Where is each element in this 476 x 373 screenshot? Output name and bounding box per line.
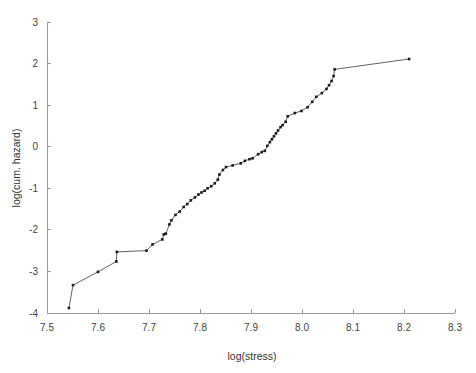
data-point (161, 238, 164, 241)
data-point (300, 110, 303, 113)
data-point (271, 138, 274, 141)
y-tick-label: -2 (29, 224, 38, 235)
data-point (266, 145, 269, 148)
x-tick-label: 8.1 (346, 322, 360, 333)
x-tick-label: 8.3 (448, 322, 462, 333)
x-axis-title: log(stress) (227, 350, 276, 362)
axis-lines (47, 22, 455, 313)
y-tick-label: 1 (32, 100, 38, 111)
data-point (240, 162, 243, 165)
data-point (263, 150, 266, 153)
y-axis-title: log(cum. hazard) (10, 129, 22, 208)
y-tick-label: -1 (29, 183, 38, 194)
data-point (178, 210, 181, 213)
data-point (257, 153, 260, 156)
data-point (260, 151, 263, 154)
data-point (145, 249, 148, 252)
data-point (213, 182, 216, 185)
x-tick-label: 8.2 (397, 322, 411, 333)
data-point (72, 284, 75, 287)
data-point (294, 112, 297, 115)
chart-figure: 7.57.67.77.87.98.08.18.28.3 -4-3-2-10123… (0, 0, 476, 373)
data-point (333, 68, 336, 71)
data-point (248, 158, 251, 161)
data-point (200, 191, 203, 194)
data-point (203, 189, 206, 192)
series-markers (68, 58, 411, 310)
data-point (332, 75, 335, 78)
data-point (197, 193, 200, 196)
data-point (277, 129, 280, 132)
data-point (165, 232, 168, 235)
data-point (273, 135, 276, 138)
axes-group: 7.57.67.77.87.98.08.18.28.3 -4-3-2-10123 (29, 17, 462, 334)
x-tick-marks (47, 309, 455, 313)
data-point (97, 271, 100, 274)
data-point (186, 203, 189, 206)
data-point (325, 88, 328, 91)
series-line (69, 59, 409, 308)
x-tick-label: 8.0 (295, 322, 309, 333)
x-tick-label: 7.6 (91, 322, 105, 333)
x-tick-label: 7.5 (40, 322, 54, 333)
data-point (206, 187, 209, 190)
cumulative-hazard-plot: 7.57.67.77.87.98.08.18.28.3 -4-3-2-10123… (0, 0, 476, 373)
data-point (68, 307, 71, 310)
data-point (286, 115, 289, 118)
data-point (284, 120, 287, 123)
data-point (281, 124, 284, 127)
x-tick-label: 7.7 (142, 322, 156, 333)
data-group (68, 58, 411, 310)
data-point (330, 80, 333, 83)
data-point (408, 58, 411, 61)
y-tick-label: 0 (32, 141, 38, 152)
data-point (174, 214, 177, 217)
data-point (190, 199, 193, 202)
data-point (115, 260, 118, 263)
x-tick-label: 7.9 (244, 322, 258, 333)
data-point (244, 160, 247, 163)
data-point (225, 166, 228, 169)
y-tick-labels: -4-3-2-10123 (29, 17, 38, 319)
data-point (269, 141, 272, 144)
data-point (328, 84, 331, 87)
data-point (151, 243, 154, 246)
y-tick-marks (47, 22, 51, 313)
data-point (170, 219, 173, 222)
data-point (217, 178, 220, 181)
data-point (251, 157, 254, 160)
data-point (311, 101, 314, 104)
data-point (231, 164, 234, 167)
y-tick-label: 3 (32, 17, 38, 28)
data-point (306, 106, 309, 109)
data-point (321, 92, 324, 95)
data-point (315, 96, 318, 99)
x-tick-labels: 7.57.67.77.87.98.08.18.28.3 (40, 322, 462, 333)
data-point (182, 206, 185, 209)
y-tick-label: 2 (32, 58, 38, 69)
data-point (218, 173, 221, 176)
data-point (194, 196, 197, 199)
x-tick-label: 7.8 (193, 322, 207, 333)
data-point (275, 132, 278, 135)
data-point (222, 169, 225, 172)
data-point (210, 185, 213, 188)
data-point (116, 251, 119, 254)
data-point (168, 223, 171, 226)
y-tick-label: -3 (29, 266, 38, 277)
y-tick-label: -4 (29, 308, 38, 319)
